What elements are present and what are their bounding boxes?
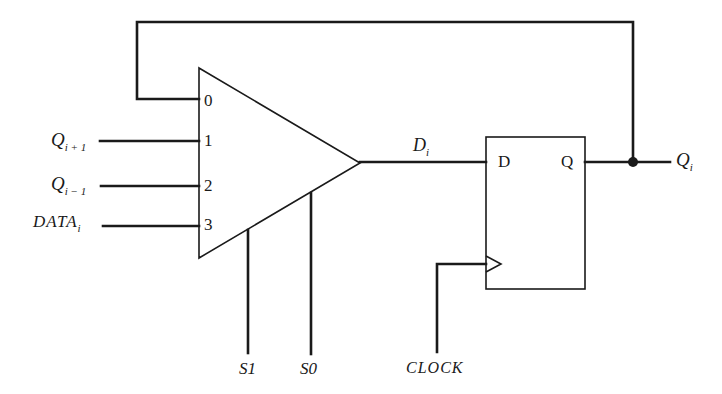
input-label-data: DATAi: [33, 213, 82, 230]
select-label-s0: S0: [300, 360, 317, 377]
input-label-q-minus: Qi − 1: [51, 174, 86, 193]
mux-port-3: 3: [204, 216, 213, 233]
circuit-diagram: [0, 0, 722, 394]
clock-label: CLOCK: [406, 360, 463, 376]
mux-output-label: Di: [413, 136, 429, 154]
clock-edge-icon: [486, 256, 501, 272]
clock-wire: [437, 264, 486, 352]
input-label-q-plus: Qi + 1: [51, 130, 86, 149]
multiplexer: [199, 68, 360, 258]
select-label-s1: S1: [239, 360, 256, 377]
output-label: Qi: [676, 150, 693, 169]
mux-port-0: 0: [204, 92, 213, 109]
junction-dot: [628, 157, 638, 167]
ff-q-label: Q: [561, 153, 573, 170]
mux-port-2: 2: [204, 177, 213, 194]
mux-port-1: 1: [204, 132, 213, 149]
ff-d-label: D: [498, 153, 510, 170]
